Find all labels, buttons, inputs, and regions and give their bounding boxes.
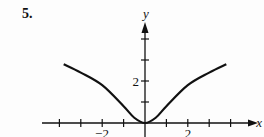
y-axis-label: y <box>141 6 149 21</box>
x-tick-label-neg2: −2 <box>95 126 109 137</box>
x-tick-label-2: 2 <box>185 126 192 137</box>
chart-plot: x y −2 2 2 <box>0 0 264 137</box>
y-tick-label-2: 2 <box>133 74 140 89</box>
x-axis-label: x <box>255 115 262 130</box>
figure: 5. x y −2 2 2 <box>0 0 264 137</box>
y-axis-arrow-icon <box>142 22 149 33</box>
